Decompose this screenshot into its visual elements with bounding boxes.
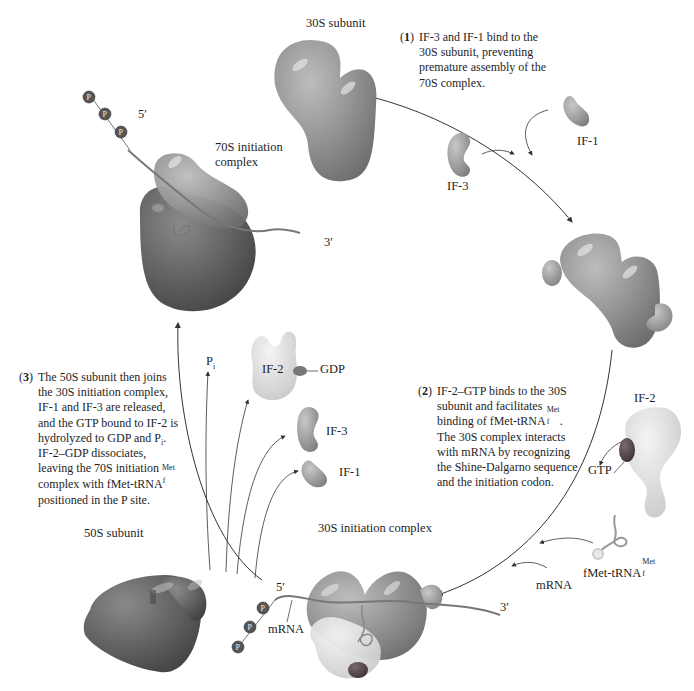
if1-released: [301, 461, 327, 488]
if3-released: [297, 407, 318, 452]
diagram-canvas: P P P P P P: [0, 0, 694, 691]
step-2-line: The 30S complex interacts: [437, 430, 578, 445]
step-2-line: with mRNA by recognizing: [437, 445, 578, 460]
step-3-line: IF-2–GDP dissociates,: [38, 446, 178, 461]
step-2-description: (2) IF-2–GTP binds to the 30S subunit an…: [418, 384, 578, 490]
step-3-line: and the GTP bound to IF-2 is: [38, 416, 178, 431]
label-if2-right: IF-2: [634, 391, 656, 406]
arrow-if3-out: [237, 436, 285, 574]
step-3-line: positioned in the P site.: [38, 493, 178, 508]
step-3-line: The 50S subunit then joins: [38, 370, 178, 385]
subunit-50s-free: [84, 575, 207, 672]
step-2-line: binding of fMet-tRNAMetf.: [437, 414, 578, 429]
arrow-if1-in: [525, 110, 548, 155]
step-2-line: IF-2–GTP binds to the 30S: [437, 384, 578, 399]
subunit-30s-free: [274, 40, 376, 181]
step-3-description: (3) The 50S subunit then joins the 30S i…: [19, 370, 178, 508]
label-gtp: GTP: [588, 463, 612, 478]
label-5prime-top: 5′: [138, 107, 147, 122]
step-3-line: hydrolyzed to GDP and Pi.: [38, 431, 178, 446]
if2-gtp-factor: [614, 407, 681, 517]
label-70s-complex-line1: 70S initiation: [215, 140, 283, 155]
step-1-line: 30S subunit, preventing: [419, 45, 546, 60]
label-if1-top: IF-1: [577, 134, 599, 149]
label-if1-released: IF-1: [339, 465, 361, 480]
if1-factor-top: [563, 96, 589, 126]
cycle-arrow-step1: [372, 97, 572, 222]
label-mrna-right: mRNA: [536, 578, 572, 593]
if3-factor-top: [447, 133, 470, 177]
step-3-line: the 30S initiation complex,: [38, 385, 178, 400]
step-1-line: IF-3 and IF-1 bind to the: [419, 30, 546, 45]
arrow-if1-out: [255, 471, 298, 578]
label-if3-top: IF-3: [447, 179, 469, 194]
svg-text:P: P: [103, 110, 108, 119]
svg-text:P: P: [87, 93, 92, 102]
step-3-line: leaving the 70S initiation Met: [38, 461, 178, 477]
label-gdp: GDP: [320, 362, 345, 377]
label-if3-released: IF-3: [326, 424, 348, 439]
phosphate-chain-top: P P P: [83, 91, 130, 150]
svg-text:P: P: [119, 128, 124, 137]
svg-text:P: P: [248, 623, 253, 632]
label-mrna-bottom: mRNA: [268, 622, 304, 637]
label-pi: Pi: [206, 354, 215, 369]
label-30s-subunit: 30S subunit: [306, 16, 365, 31]
arrow-if3-in: [482, 150, 514, 154]
step-1-line: premature assembly of the: [419, 60, 546, 75]
complex-30s-initiation: [307, 571, 443, 678]
step-2-line: and the initiation codon.: [437, 475, 578, 490]
cycle-arrow-step3: [178, 323, 262, 580]
label-30s-initiation-complex: 30S initiation complex: [318, 521, 432, 536]
subunit-30s-with-if1-if3: [542, 233, 673, 347]
step-3-line: complex with fMet-tRNAf: [38, 477, 178, 492]
svg-text:P: P: [236, 643, 241, 652]
fmet-trna: [593, 515, 627, 559]
label-fmet-trna: fMet-tRNAMetf: [583, 566, 655, 581]
step-3-line: IF-1 and IF-3 are released,: [38, 400, 178, 415]
complex-70s-initiation: [140, 153, 256, 311]
mrna-pointer-bottom: [287, 600, 292, 622]
label-5prime-bottom: 5′: [276, 580, 285, 595]
label-if2-released: IF-2: [262, 362, 284, 377]
arrow-pi-out: [206, 372, 210, 570]
step-1-line: 70S complex.: [419, 76, 546, 91]
label-50s-subunit: 50S subunit: [84, 526, 143, 541]
arrow-trna-in: [540, 538, 593, 543]
step-3-number: (3): [19, 370, 33, 385]
step-1-number: (1): [400, 30, 414, 45]
label-70s-complex-line2: complex: [215, 155, 258, 170]
step-1-description: (1) IF-3 and IF-1 bind to the 30S subuni…: [400, 30, 546, 91]
svg-text:P: P: [261, 604, 266, 613]
step-2-number: (2): [418, 384, 432, 399]
label-3prime-top: 3′: [324, 235, 333, 250]
arrow-if2-out: [226, 400, 248, 572]
arrow-mrna-in: [512, 562, 547, 568]
label-3prime-bottom: 3′: [500, 600, 509, 615]
step-2-line: the Shine-Dalgarno sequence: [437, 460, 578, 475]
